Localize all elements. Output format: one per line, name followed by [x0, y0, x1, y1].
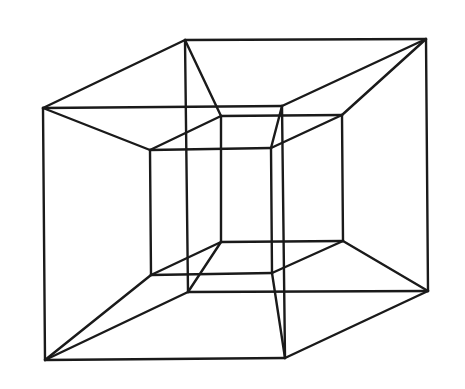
edge-E-F — [185, 39, 426, 40]
edge-B-F — [282, 39, 426, 106]
edge-C-G — [285, 291, 428, 358]
edge-O-P — [221, 241, 343, 242]
wireframe-edges — [43, 39, 428, 360]
edge-A-B — [43, 106, 282, 108]
edge-D-A — [43, 108, 45, 360]
edge-G-H — [188, 291, 428, 292]
edge-F-G — [426, 39, 428, 291]
edge-H-E — [185, 40, 188, 292]
edge-C-D — [45, 358, 285, 360]
edge-G-O — [343, 241, 428, 291]
edge-N-O — [342, 115, 343, 241]
edge-A-I — [43, 108, 150, 150]
edge-J-K — [271, 148, 272, 273]
edge-A-E — [43, 40, 185, 108]
edge-E-M — [185, 40, 221, 116]
edge-L-I — [150, 150, 151, 275]
edge-B-J — [271, 106, 282, 148]
edge-F-N — [342, 39, 426, 115]
edge-K-L — [151, 273, 272, 275]
edge-M-N — [221, 115, 342, 116]
tesseract-diagram — [0, 0, 465, 389]
edge-I-J — [150, 148, 271, 150]
